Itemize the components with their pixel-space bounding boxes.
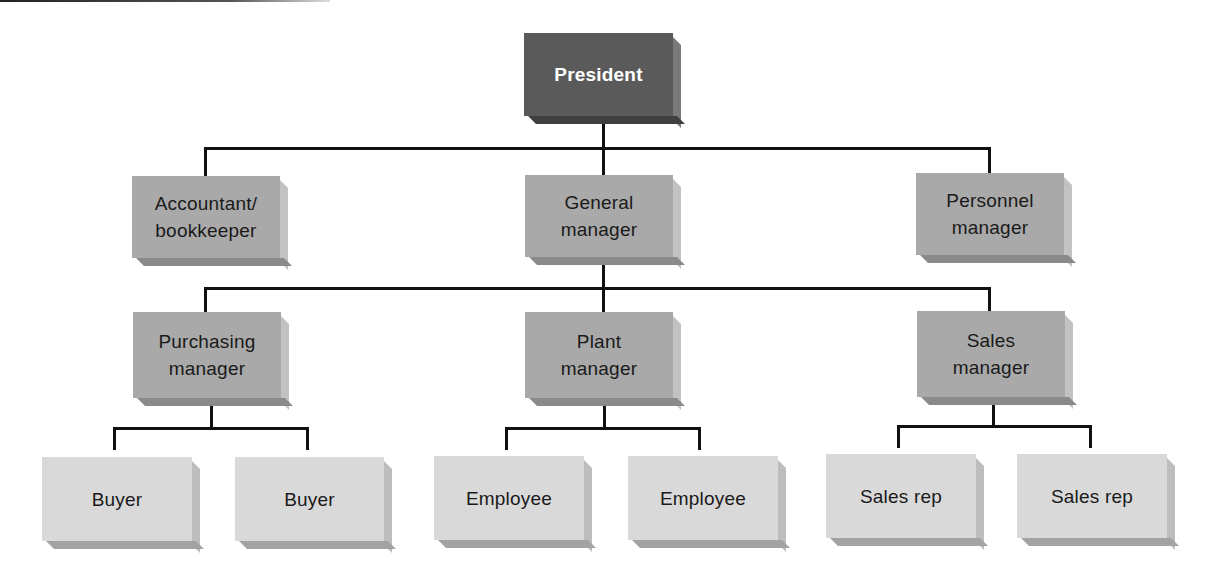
node-plant-manager[interactable]: Plant manager xyxy=(525,312,681,406)
connector-to-accountant xyxy=(204,147,207,177)
connector-to-employee-2 xyxy=(698,427,701,450)
top-edge-rule xyxy=(0,0,330,2)
node-label: Sales rep xyxy=(860,483,942,510)
node-label: Plant manager xyxy=(561,328,637,382)
connector-plant-down xyxy=(603,402,606,430)
connector-level1-bar xyxy=(204,147,991,150)
connector-to-sales-rep-2 xyxy=(1089,425,1092,448)
connector-to-sales-manager xyxy=(988,287,991,313)
connector-general-manager-down xyxy=(602,262,605,290)
node-label: General manager xyxy=(561,189,637,243)
node-label: Employee xyxy=(466,485,552,512)
node-label: Employee xyxy=(660,485,746,512)
node-label: Purchasing manager xyxy=(158,328,255,382)
node-president[interactable]: President xyxy=(524,33,681,124)
connector-to-employee-1 xyxy=(505,427,508,450)
connector-level2-bar xyxy=(204,287,991,290)
connector-to-plant-manager xyxy=(602,287,605,314)
connector-to-purchasing-manager xyxy=(204,287,207,314)
connector-to-buyer-1 xyxy=(113,427,116,450)
connector-sales-bar xyxy=(897,425,1092,428)
node-label: Accountant/ bookkeeper xyxy=(155,190,258,244)
connector-to-personnel-manager xyxy=(988,147,991,175)
node-label: Buyer xyxy=(284,486,335,513)
node-purchasing-manager[interactable]: Purchasing manager xyxy=(133,312,289,406)
node-label: Sales manager xyxy=(953,327,1029,381)
node-sales-rep-2[interactable]: Sales rep xyxy=(1017,454,1175,546)
node-personnel-manager[interactable]: Personnel manager xyxy=(916,173,1072,263)
node-buyer-1[interactable]: Buyer xyxy=(42,457,200,549)
node-employee-2[interactable]: Employee xyxy=(628,456,786,548)
node-sales-rep-1[interactable]: Sales rep xyxy=(826,454,984,546)
node-sales-manager[interactable]: Sales manager xyxy=(917,311,1073,405)
connector-purchasing-down xyxy=(210,402,213,430)
node-buyer-2[interactable]: Buyer xyxy=(235,457,392,549)
connector-purchasing-bar xyxy=(113,427,309,430)
node-employee-1[interactable]: Employee xyxy=(434,456,592,548)
node-label: Personnel manager xyxy=(946,187,1033,241)
connector-plant-bar xyxy=(505,427,701,430)
connector-to-general-manager xyxy=(602,147,605,177)
connector-to-buyer-2 xyxy=(306,427,309,450)
node-label: Sales rep xyxy=(1051,483,1133,510)
node-label: President xyxy=(554,61,642,88)
node-label: Buyer xyxy=(92,486,143,513)
node-general-manager[interactable]: General manager xyxy=(525,175,681,265)
connector-to-sales-rep-1 xyxy=(897,425,900,448)
node-accountant-bookkeeper[interactable]: Accountant/ bookkeeper xyxy=(132,176,288,266)
